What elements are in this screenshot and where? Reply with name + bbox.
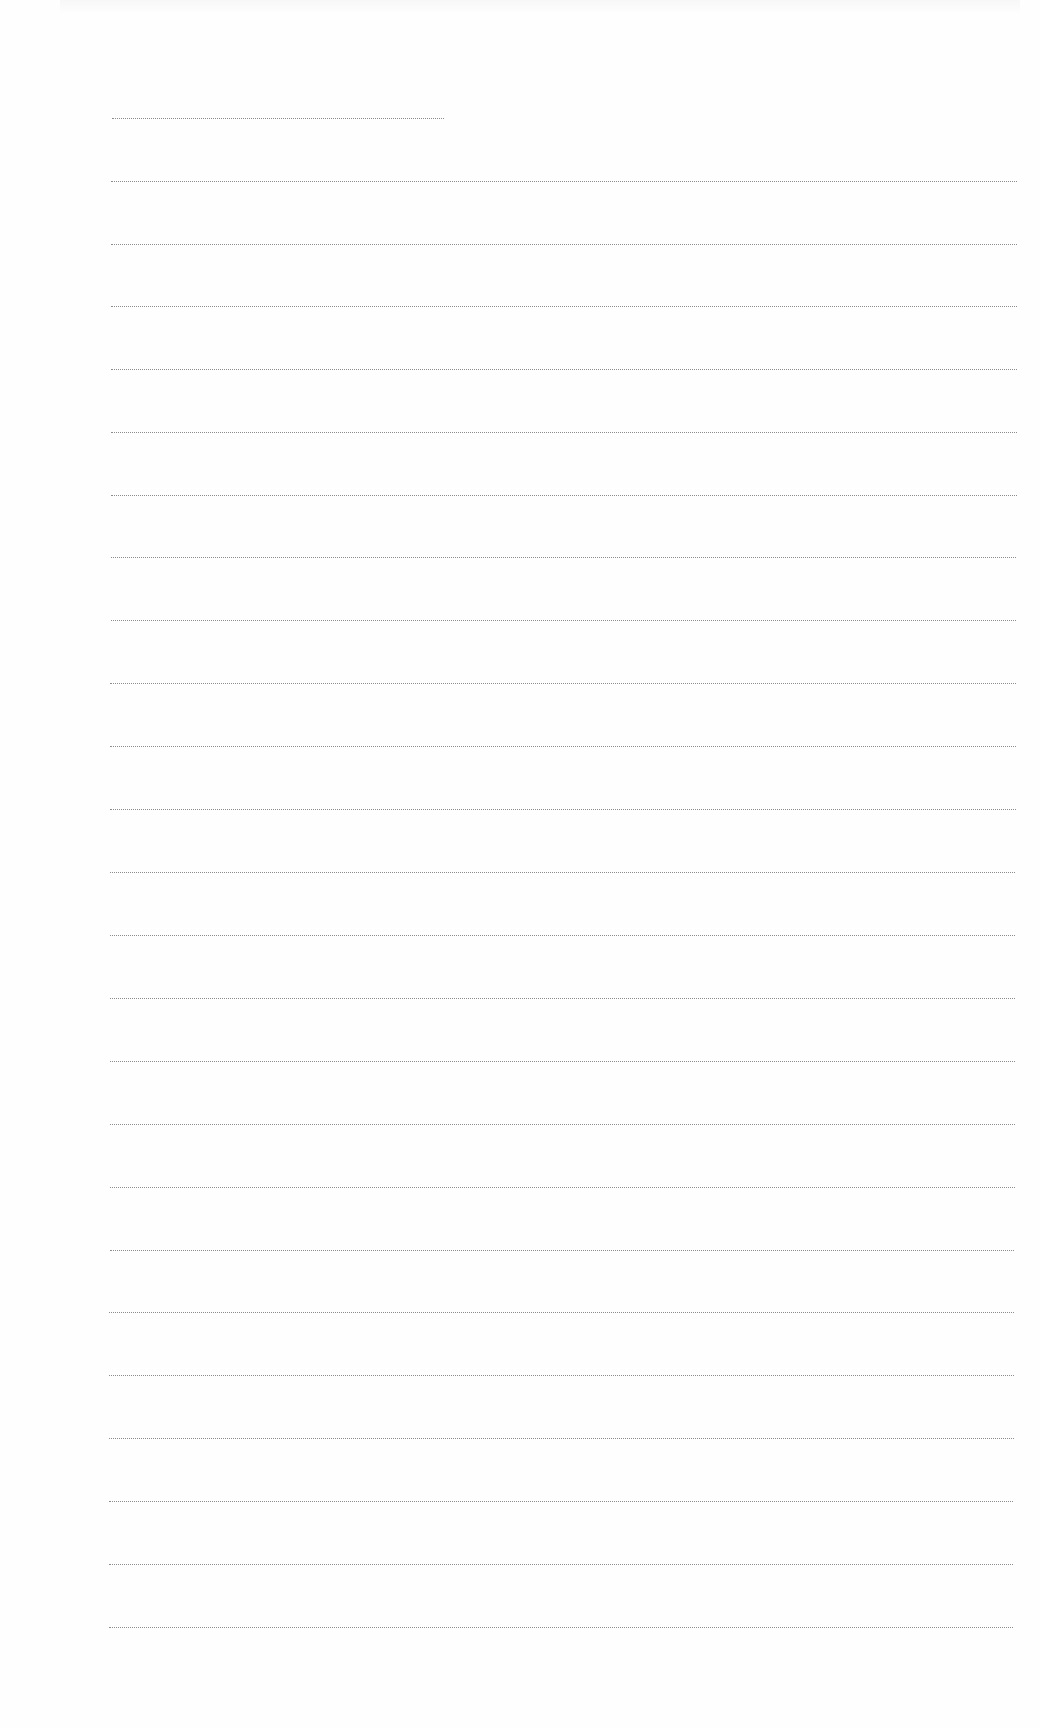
writing-line bbox=[111, 432, 1017, 433]
writing-line bbox=[112, 118, 444, 119]
writing-line bbox=[110, 1124, 1015, 1125]
writing-line bbox=[111, 495, 1017, 496]
writing-line bbox=[111, 181, 1017, 182]
writing-line bbox=[111, 557, 1016, 558]
scan-bleed-through bbox=[60, 0, 1020, 14]
writing-line bbox=[111, 369, 1017, 370]
writing-line bbox=[109, 1375, 1014, 1376]
writing-line bbox=[110, 872, 1015, 873]
writing-line bbox=[110, 935, 1015, 936]
writing-line bbox=[110, 809, 1016, 810]
writing-line bbox=[109, 1501, 1013, 1502]
writing-line bbox=[110, 746, 1016, 747]
writing-line bbox=[110, 998, 1015, 999]
writing-line bbox=[111, 620, 1016, 621]
writing-line bbox=[109, 1627, 1013, 1628]
writing-line bbox=[111, 306, 1017, 307]
writing-line bbox=[109, 1564, 1013, 1565]
writing-line bbox=[109, 1312, 1014, 1313]
writing-line bbox=[110, 1250, 1014, 1251]
writing-line bbox=[109, 1438, 1014, 1439]
writing-line bbox=[110, 1187, 1015, 1188]
writing-line bbox=[110, 1061, 1015, 1062]
writing-line bbox=[110, 683, 1016, 684]
lined-paper-page bbox=[0, 0, 1040, 1728]
writing-line bbox=[111, 244, 1017, 245]
